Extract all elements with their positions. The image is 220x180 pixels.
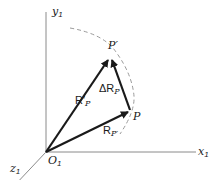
vector-r-p-label: RP′ [103,125,118,138]
origin-label: O1 [48,155,61,168]
x-axis-label: x1 [198,146,209,159]
point-p-label: P [133,111,140,122]
z-axis-label: z1 [10,163,20,176]
y-axis-label: y1 [52,6,63,19]
point-p-prime-label: P′ [108,40,118,51]
trajectory-arc [70,28,134,134]
vector-r-p-prime-label: R′P [75,95,90,108]
vector-delta-r-label: ΔRP [99,83,120,96]
